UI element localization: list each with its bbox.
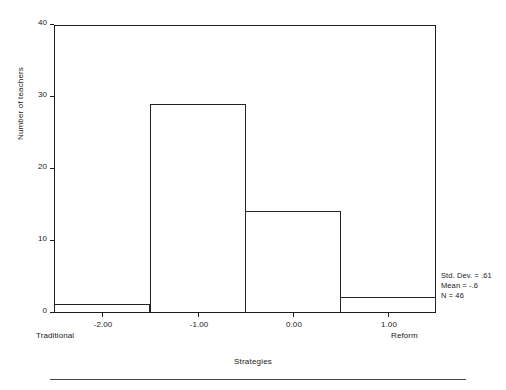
x-tick-label: 1.00 bbox=[361, 320, 417, 329]
histogram-figure: 40 30 20 10 0 Number of teachers bbox=[0, 0, 506, 390]
y-tick-label: 30 bbox=[38, 90, 47, 99]
x-axis-anchor-left: Traditional bbox=[36, 331, 74, 340]
x-tick-label: 0.00 bbox=[266, 320, 322, 329]
statistics-annotation: Std. Dev. = .61 Mean = -.6 N = 46 bbox=[441, 271, 492, 301]
y-axis-title: Number of teachers bbox=[16, 128, 26, 140]
x-tick-mark bbox=[293, 313, 294, 317]
y-tick-label: 10 bbox=[38, 234, 47, 243]
x-tick-label: -2.00 bbox=[75, 320, 131, 329]
y-tick-label: 20 bbox=[38, 162, 47, 171]
x-axis: -2.00 -1.00 0.00 1.00 bbox=[0, 313, 506, 353]
stat-n: N = 46 bbox=[441, 291, 492, 301]
footer-divider bbox=[50, 379, 466, 380]
bars-layer bbox=[55, 26, 435, 312]
x-tick-label: -1.00 bbox=[171, 320, 227, 329]
x-tick-mark bbox=[388, 313, 389, 317]
histogram-bar bbox=[340, 297, 436, 312]
plot-area bbox=[54, 25, 436, 313]
x-tick-mark bbox=[198, 313, 199, 317]
x-axis-anchor-right: Reform bbox=[391, 331, 418, 340]
stat-mean: Mean = -.6 bbox=[441, 281, 492, 291]
x-axis-title: Strategies bbox=[0, 357, 506, 366]
y-tick-label: 40 bbox=[38, 18, 47, 27]
x-tick-mark bbox=[102, 313, 103, 317]
histogram-bar bbox=[54, 304, 150, 312]
histogram-bar bbox=[245, 211, 341, 312]
histogram-bar bbox=[150, 104, 246, 312]
stat-std-dev: Std. Dev. = .61 bbox=[441, 271, 492, 281]
